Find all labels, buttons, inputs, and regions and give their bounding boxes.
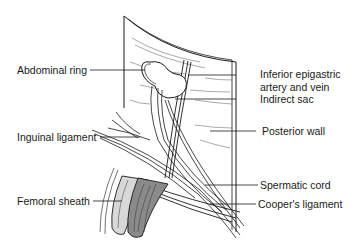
label-coopers-ligament: Cooper's ligament <box>258 198 342 211</box>
label-indirect-sac: Indirect sac <box>260 93 314 106</box>
label-posterior-wall: Posterior wall <box>262 125 325 138</box>
label-femoral-sheath: Femoral sheath <box>17 195 90 208</box>
label-spermatic-cord: Spermatic cord <box>260 179 331 192</box>
indirect-sac-shape <box>142 62 187 98</box>
label-abdominal-ring: Abdominal ring <box>17 64 87 77</box>
femoral-sheath-vessels <box>100 168 168 237</box>
label-inferior-epigastric-line1: Inferior epigastric <box>260 68 341 81</box>
anatomy-figure: Abdominal ring Inguinal ligament Femoral… <box>0 0 356 247</box>
label-inguinal-ligament: Inguinal ligament <box>17 131 96 144</box>
